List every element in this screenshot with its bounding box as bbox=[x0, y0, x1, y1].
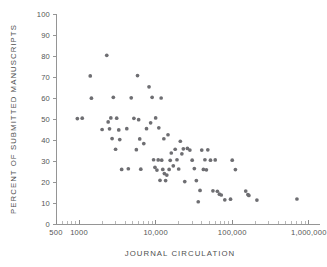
data-point bbox=[108, 127, 112, 131]
data-point bbox=[138, 137, 142, 141]
data-point bbox=[169, 151, 173, 155]
data-point bbox=[206, 148, 210, 152]
data-point bbox=[157, 126, 161, 130]
y-tick-label: 30 bbox=[41, 157, 50, 166]
data-point bbox=[168, 159, 172, 163]
data-point bbox=[255, 198, 259, 202]
data-point bbox=[135, 148, 139, 152]
data-point bbox=[295, 197, 299, 201]
data-point bbox=[180, 152, 184, 156]
data-point bbox=[223, 198, 227, 202]
data-point bbox=[142, 142, 146, 146]
data-point bbox=[129, 96, 133, 100]
data-point bbox=[158, 178, 162, 182]
data-point bbox=[234, 168, 238, 172]
data-point bbox=[139, 167, 143, 171]
y-tick-label: 10 bbox=[41, 199, 50, 208]
y-tick-label: 40 bbox=[41, 136, 50, 145]
data-point bbox=[230, 158, 234, 162]
x-tick-label: 500 bbox=[49, 228, 62, 237]
data-point bbox=[171, 164, 175, 168]
data-point bbox=[213, 158, 217, 162]
data-point bbox=[192, 167, 196, 171]
data-point bbox=[117, 128, 121, 132]
data-point bbox=[145, 127, 149, 131]
data-point bbox=[183, 180, 187, 184]
data-point bbox=[118, 138, 122, 142]
data-point bbox=[164, 179, 168, 183]
data-point bbox=[154, 116, 158, 120]
data-point bbox=[203, 158, 207, 162]
y-tick-label: 100 bbox=[37, 10, 50, 19]
x-tick-label: 10,000 bbox=[143, 228, 167, 237]
data-point bbox=[205, 168, 209, 172]
plot-axes bbox=[56, 14, 320, 224]
data-point bbox=[165, 173, 169, 177]
data-point bbox=[90, 96, 94, 100]
data-point bbox=[159, 96, 163, 100]
data-point bbox=[110, 137, 114, 141]
x-axis-title: JOURNAL CIRCULATION bbox=[125, 249, 236, 258]
data-point bbox=[114, 147, 118, 151]
data-point bbox=[137, 118, 141, 122]
data-point bbox=[173, 147, 177, 151]
data-point bbox=[161, 168, 165, 172]
data-point bbox=[106, 120, 110, 124]
data-point bbox=[126, 167, 130, 171]
data-point bbox=[194, 179, 198, 183]
data-point bbox=[196, 200, 200, 204]
data-point bbox=[109, 116, 113, 120]
data-point bbox=[132, 117, 136, 121]
data-point bbox=[177, 167, 181, 171]
data-point bbox=[156, 158, 160, 162]
data-point bbox=[120, 168, 124, 172]
y-tick-label: 80 bbox=[41, 52, 50, 61]
data-point bbox=[152, 158, 156, 162]
data-point bbox=[149, 121, 153, 125]
y-axis-tick-labels: 0102030405060708090100 bbox=[37, 10, 50, 229]
data-point bbox=[105, 54, 109, 58]
data-point bbox=[244, 189, 248, 193]
data-point bbox=[136, 74, 140, 78]
data-point bbox=[219, 193, 223, 197]
data-point bbox=[115, 116, 119, 120]
x-axis-tick-labels: 500100010,000100,0001,000,000 bbox=[49, 228, 326, 237]
scatter-chart-figure: 0102030405060708090100 500100010,000100,… bbox=[0, 0, 327, 267]
x-tick-label: 1,000,000 bbox=[291, 228, 327, 237]
data-point bbox=[150, 96, 154, 100]
y-axis-ticks bbox=[53, 14, 57, 224]
data-point bbox=[198, 189, 202, 193]
data-point bbox=[155, 168, 159, 172]
y-axis-title: PERCENT OF SUBMITTED MANUSCRIPTS bbox=[9, 24, 18, 214]
y-tick-label: 70 bbox=[41, 73, 50, 82]
scatter-data-points bbox=[76, 54, 299, 204]
data-point bbox=[211, 189, 215, 193]
data-point bbox=[76, 117, 80, 121]
x-tick-label: 1000 bbox=[70, 228, 88, 237]
y-tick-label: 60 bbox=[41, 94, 50, 103]
x-axis-minor-ticks bbox=[56, 220, 309, 225]
data-point bbox=[167, 168, 171, 172]
data-point bbox=[166, 133, 170, 137]
data-point bbox=[125, 127, 129, 131]
data-point bbox=[175, 158, 179, 162]
data-point bbox=[190, 158, 194, 162]
data-point bbox=[181, 147, 185, 151]
x-tick-label: 100,000 bbox=[218, 228, 247, 237]
data-point bbox=[178, 139, 182, 143]
data-point bbox=[147, 85, 151, 89]
data-point bbox=[80, 116, 84, 120]
y-tick-label: 90 bbox=[41, 31, 50, 40]
data-point bbox=[162, 137, 166, 141]
data-point bbox=[188, 148, 192, 152]
data-point bbox=[100, 128, 104, 132]
x-axis-major-ticks bbox=[56, 220, 309, 225]
data-point bbox=[88, 74, 92, 78]
data-point bbox=[200, 148, 204, 152]
y-tick-label: 20 bbox=[41, 178, 50, 187]
data-point bbox=[160, 158, 164, 162]
y-tick-label: 50 bbox=[41, 115, 50, 124]
data-point bbox=[209, 158, 213, 162]
data-point bbox=[111, 96, 115, 100]
journal-circulation-scatter-plot: 0102030405060708090100 500100010,000100,… bbox=[0, 0, 327, 267]
